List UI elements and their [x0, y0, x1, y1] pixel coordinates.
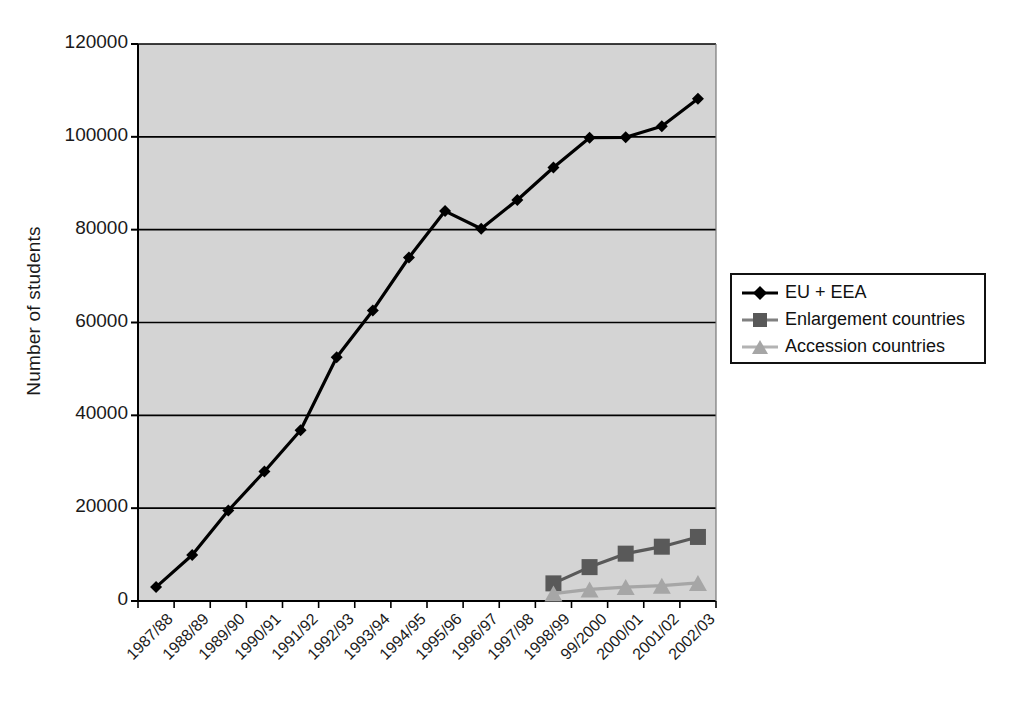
legend-item-eu-eea: EU + EEA	[740, 279, 867, 306]
data-point-marker	[690, 529, 706, 545]
data-point-marker	[618, 546, 634, 562]
y-axis-tick-label: 80000	[10, 217, 128, 239]
legend-item-enlargement-countries: Enlargement countries	[740, 306, 965, 333]
legend-label-eu-eea: EU + EEA	[785, 282, 867, 303]
legend-label-enlargement-countries: Enlargement countries	[785, 309, 965, 330]
y-axis-tick-label: 0	[10, 588, 128, 610]
legend-swatch-diamond-icon	[740, 282, 780, 304]
y-axis-tick-label: 40000	[10, 402, 128, 424]
y-axis-tick-label: 20000	[10, 495, 128, 517]
y-axis-tick-label: 60000	[10, 310, 128, 332]
legend-label-accession-countries: Accession countries	[785, 336, 945, 357]
y-axis-tick-labels: 020000400006000080000100000120000	[0, 0, 128, 708]
y-axis-tick-label: 120000	[10, 31, 128, 53]
legend-swatch-triangle-icon	[740, 336, 780, 358]
data-point-marker	[654, 539, 670, 555]
line-chart: Number of students 020000400006000080000…	[0, 0, 1009, 708]
y-axis-tick-label: 100000	[10, 124, 128, 146]
data-point-marker	[582, 559, 598, 575]
legend-swatch-square-icon	[740, 309, 780, 331]
legend: EU + EEA Enlargement countries Accession…	[730, 273, 986, 364]
legend-item-accession-countries: Accession countries	[740, 333, 945, 360]
